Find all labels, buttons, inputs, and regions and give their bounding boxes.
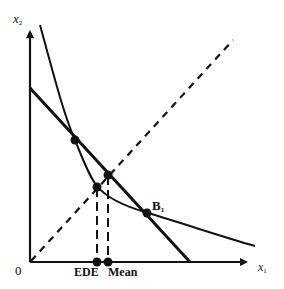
diagram-canvas: x2 x1 0 EDE Mean B1 [0,0,284,289]
diagram-graphics [0,0,284,289]
y-axis-label: x2 [13,11,22,27]
mean-point-on-equality-line [104,171,113,180]
x-axis-label: x1 [258,260,267,275]
origin-label: 0 [15,263,22,279]
point-b1-label: B1 [152,198,164,214]
equality-line [31,40,233,261]
y-axis-label-sub: 2 [19,19,23,27]
point-b1-letter: B [152,198,161,213]
mean-label: Mean [108,265,137,280]
x-axis-label-sub: 1 [263,267,267,275]
point-b1-sub: 1 [161,206,165,214]
tangent-point-upper [71,136,80,145]
point-b1 [143,209,152,218]
ede-label: EDE [74,265,99,280]
ede-point-on-curve [93,183,102,192]
